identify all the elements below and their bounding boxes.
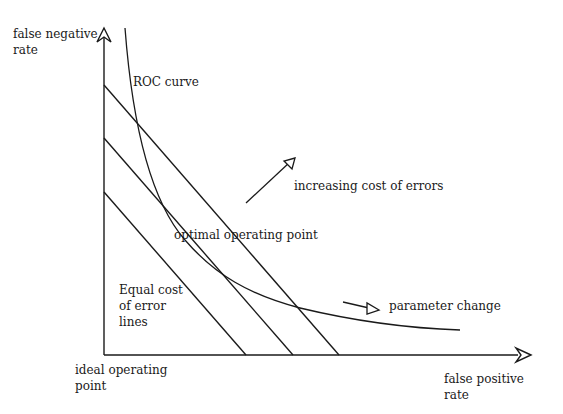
optimal-point-label: optimal operating point xyxy=(174,227,318,243)
parameter-change-arrowhead-icon xyxy=(367,303,379,314)
equal-cost-line-1 xyxy=(104,192,246,355)
y-axis-label-line2: rate xyxy=(13,42,98,58)
x-axis-arrowhead-icon xyxy=(516,348,531,362)
parameter-change-arrow xyxy=(343,302,369,308)
increasing-cost-arrow xyxy=(246,162,290,203)
roc-diagram xyxy=(0,0,563,414)
parameter-change-label: parameter change xyxy=(389,298,501,314)
x-axis-label-line2: rate xyxy=(444,387,524,403)
equal-cost-label-line1: Equal cost xyxy=(119,282,183,298)
y-axis-label-line1: false negative xyxy=(13,26,98,42)
x-axis-label: false positive rate xyxy=(444,371,524,403)
increasing-cost-arrowhead-icon xyxy=(284,158,295,169)
y-axis-label: false negative rate xyxy=(13,26,98,58)
roc-curve-label: ROC curve xyxy=(133,74,199,90)
origin-label-line1: ideal operating xyxy=(75,362,167,378)
equal-cost-label-line2: of error xyxy=(119,298,183,314)
equal-cost-label: Equal cost of error lines xyxy=(119,282,183,330)
equal-cost-label-line3: lines xyxy=(119,314,183,330)
origin-label: ideal operating point xyxy=(75,362,167,394)
increasing-cost-label: increasing cost of errors xyxy=(294,178,443,194)
x-axis-label-line1: false positive xyxy=(444,371,524,387)
origin-label-line2: point xyxy=(75,378,167,394)
